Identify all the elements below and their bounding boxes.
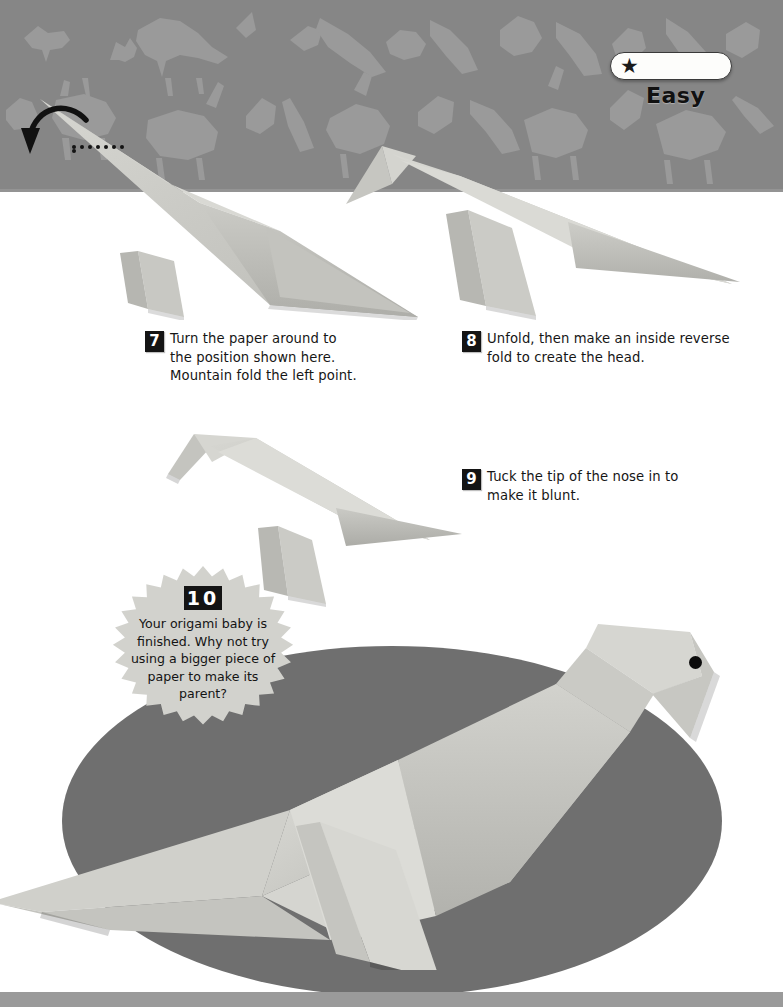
star-icon: ★ [620, 56, 639, 77]
starburst-content: 10 Your origami baby is finished. Why no… [96, 586, 310, 703]
step-text-8: Unfold, then make an inside reverse fold… [487, 330, 737, 367]
step-text-7: Turn the paper around to the position sh… [170, 330, 360, 386]
step-text-9: Tuck the tip of the nose in to make it b… [487, 468, 712, 505]
step-number-7: 7 [145, 331, 164, 352]
step-number-10: 10 [184, 586, 222, 610]
step-caption-9: 9 Tuck the tip of the nose in to make it… [462, 468, 712, 505]
bird-eye-icon [689, 656, 702, 669]
mountain-fold-dotted-line [72, 145, 130, 150]
origami-instruction-page: ★ Easy [0, 0, 783, 1007]
bottom-strip [0, 992, 783, 1007]
origami-model-step-8 [340, 132, 760, 322]
step-text-10: Your origami baby is finished. Why not t… [96, 615, 310, 703]
step-caption-8: 8 Unfold, then make an inside reverse fo… [462, 330, 737, 367]
mountain-fold-arrow-icon [16, 92, 96, 162]
step-number-9: 9 [462, 469, 481, 490]
difficulty-badge: ★ [610, 52, 732, 80]
final-step-starburst: 10 Your origami baby is finished. Why no… [96, 566, 310, 752]
step-number-8: 8 [462, 331, 481, 352]
difficulty-label: Easy [646, 83, 756, 108]
step-caption-7: 7 Turn the paper around to the position … [145, 330, 360, 386]
